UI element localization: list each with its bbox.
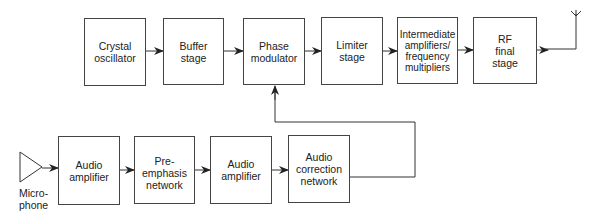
block-label: Audio amplifier bbox=[69, 159, 109, 183]
block-pre-emphasis-network: Pre-emphasis network bbox=[134, 136, 195, 204]
block-crystal-oscillator: Crystal oscillator bbox=[84, 18, 146, 86]
block-label: Pre-emphasis network bbox=[135, 155, 194, 191]
antenna-icon bbox=[571, 10, 581, 16]
block-label: RF final stage bbox=[492, 33, 518, 69]
block-label: Crystal oscillator bbox=[94, 40, 135, 64]
block-phase-modulator: Phase modulator bbox=[243, 18, 305, 85]
microphone-icon bbox=[20, 152, 42, 182]
block-audio-amplifier-2: Audio amplifier bbox=[210, 136, 272, 204]
block-rf-final-stage: RF final stage bbox=[473, 17, 537, 84]
block-intermediate-amplifiers: Intermediate amplifiers/ frequency multi… bbox=[397, 17, 458, 84]
block-buffer-stage: Buffer stage bbox=[163, 18, 224, 85]
microphone-label: Micro- phone bbox=[19, 187, 48, 211]
block-label: Phase modulator bbox=[251, 40, 298, 64]
block-label: Audio amplifier bbox=[221, 158, 261, 182]
block-label: Buffer stage bbox=[180, 40, 208, 64]
block-limiter-stage: Limiter stage bbox=[321, 17, 383, 85]
block-audio-amplifier-1: Audio amplifier bbox=[58, 136, 120, 205]
block-label: Intermediate amplifiers/ frequency multi… bbox=[400, 29, 456, 73]
block-label: Limiter stage bbox=[336, 39, 368, 63]
block-audio-correction-network: Audio correction network bbox=[288, 135, 350, 203]
block-label: Audio correction network bbox=[296, 151, 342, 187]
